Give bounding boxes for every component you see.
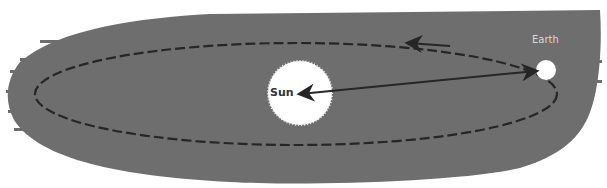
- sun-label: Sun: [270, 86, 294, 99]
- earth: [536, 60, 556, 80]
- orbit-diagram: [0, 0, 607, 188]
- earth-label: Earth: [532, 34, 559, 45]
